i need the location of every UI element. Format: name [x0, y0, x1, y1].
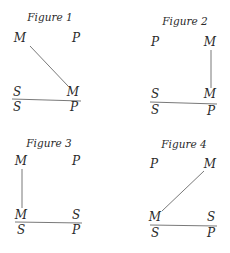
- middle-term-connector: [162, 171, 204, 211]
- conclusion-right-term: P: [206, 226, 216, 240]
- major-premise-left-term: P: [150, 35, 160, 49]
- figure-title: Figure 1: [26, 11, 72, 23]
- major-premise-left-term: M: [14, 154, 28, 168]
- conclusion-right-term: P: [71, 223, 81, 237]
- conclusion-left-term: S: [17, 223, 25, 237]
- minor-premise-right-term: M: [203, 87, 217, 101]
- figure-4: Figure 4 P M M S S P: [148, 138, 217, 240]
- minor-premise-right-term: S: [72, 208, 80, 222]
- conclusion-left-term: S: [13, 100, 21, 114]
- minor-premise-left-term: S: [151, 87, 159, 101]
- minor-premise-right-term: S: [207, 210, 215, 224]
- major-premise-right-term: M: [203, 157, 217, 171]
- major-premise-left-term: P: [149, 157, 159, 171]
- major-premise-right-term: P: [71, 154, 81, 168]
- figure-3: Figure 3 M P M S S P: [14, 137, 82, 237]
- major-premise-left-term: M: [13, 31, 27, 45]
- figure-title: Figure 4: [160, 138, 206, 150]
- figure-2: Figure 2 P M S M S P: [150, 15, 217, 118]
- figure-1: Figure 1 M P S M S P: [12, 11, 81, 114]
- conclusion-right-term: P: [206, 104, 216, 118]
- minor-premise-left-term: S: [13, 85, 21, 99]
- major-premise-right-term: P: [71, 31, 81, 45]
- minor-premise-left-term: M: [14, 208, 28, 222]
- conclusion-left-term: S: [151, 103, 159, 117]
- major-premise-right-term: M: [203, 35, 217, 49]
- figure-title: Figure 2: [161, 15, 208, 27]
- middle-term-connector: [30, 46, 68, 86]
- conclusion-right-term: P: [69, 100, 79, 114]
- minor-premise-left-term: M: [148, 210, 162, 224]
- figure-title: Figure 3: [25, 137, 72, 149]
- minor-premise-right-term: M: [66, 85, 80, 99]
- conclusion-left-term: S: [151, 226, 159, 240]
- syllogism-figures-diagram: Figure 1 M P S M S P Figure 2 P M S M S …: [0, 0, 230, 253]
